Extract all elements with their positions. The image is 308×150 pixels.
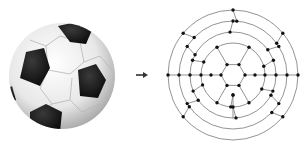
graph-node [277,45,280,48]
graph-node [202,60,205,63]
graph-node [271,89,274,92]
graph-node [263,73,266,76]
graph-node [193,53,196,56]
graph-node [215,46,218,49]
graph-node [285,73,288,76]
graph-node [209,73,212,76]
graph-node [188,73,191,76]
graph-node [186,45,189,48]
graph-node [243,73,246,76]
graph-node [225,63,228,66]
graph-node [275,42,278,45]
graph-node [247,101,250,104]
graph-diagram [166,8,299,140]
graph-node [266,48,269,51]
graph-node [231,93,234,96]
graph-node [235,19,238,22]
arrow-icon [136,72,148,78]
graph-node [270,111,273,114]
graph-node [225,84,228,87]
graph-node [296,73,299,76]
graph-node [166,73,169,76]
graph-node [277,102,280,105]
graph-node [197,99,200,102]
graph-node [182,32,185,35]
graph-node [215,101,218,104]
graph-node [201,83,204,86]
graph-node [219,73,222,76]
graph-node [260,87,263,90]
graph-node [228,30,231,33]
graph-node [177,73,180,76]
graph-node [253,73,256,76]
graph-node [269,93,272,96]
graph-node [186,102,189,105]
graph-node [192,36,195,39]
graph-node [237,84,240,87]
graph-node [281,115,284,118]
soccer-ball-image [6,22,115,132]
graph-node [199,73,202,76]
graph-node [191,59,194,62]
graph-node [231,105,234,108]
graph-node [191,89,194,92]
graph-node [182,115,185,118]
graph-node [272,59,275,62]
graph-node [231,8,234,11]
graph-node [231,19,234,22]
graph-node [188,105,191,108]
graph-node [281,32,284,35]
graph-node [247,46,250,49]
graph-node [237,63,240,66]
figure [0,0,308,150]
graph-node [234,116,237,119]
graph-node [274,73,277,76]
graph-node [262,64,265,67]
